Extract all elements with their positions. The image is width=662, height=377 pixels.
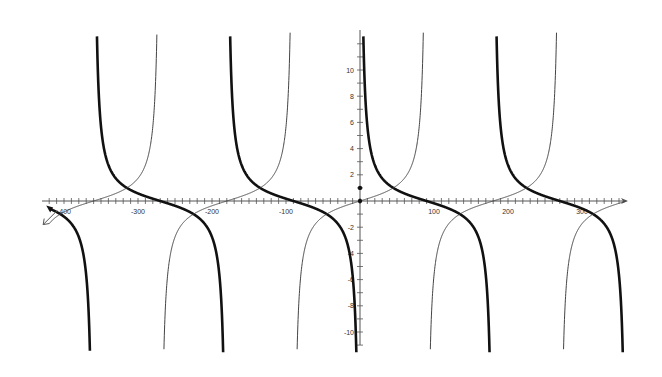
point-marker xyxy=(358,199,362,203)
y-tick-label: 8 xyxy=(350,93,354,100)
tan-curve xyxy=(49,33,626,350)
x-tick-label: 200 xyxy=(502,208,514,215)
x-tick-label: -200 xyxy=(205,208,219,215)
axes: -400-300-200-100100200300 108642-2-4-6-8… xyxy=(42,30,628,345)
y-tick-label: 6 xyxy=(350,119,354,126)
y-tick-label: 4 xyxy=(350,145,354,152)
y-tick-label: -2 xyxy=(348,224,354,231)
curves xyxy=(49,33,626,353)
x-tick-label: -300 xyxy=(131,208,145,215)
y-tick-label: 10 xyxy=(346,67,354,74)
x-tick-label: 100 xyxy=(428,208,440,215)
point-marker xyxy=(358,186,362,190)
trig-graph: -400-300-200-100100200300 108642-2-4-6-8… xyxy=(0,0,662,377)
cot-curve xyxy=(49,36,623,352)
x-tick-label: -100 xyxy=(279,208,293,215)
y-tick-label: -10 xyxy=(344,329,354,336)
y-tick-label: 2 xyxy=(350,171,354,178)
y-tick-label: -8 xyxy=(348,302,354,309)
curve-start-arrowhead xyxy=(46,206,53,213)
curve-arrow-left-icon xyxy=(43,206,57,225)
